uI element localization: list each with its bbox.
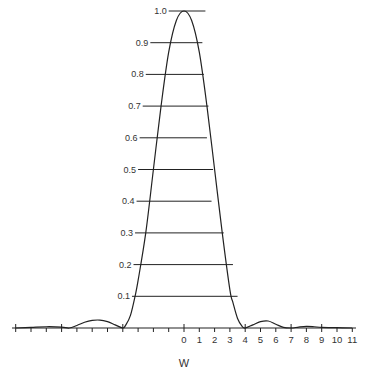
y-tick-label: 1.0 [154, 6, 167, 16]
y-tick-label: 0.7 [128, 101, 141, 111]
x-tick-label: 0 [181, 334, 186, 345]
x-axis-labels: 01234567891011 [181, 334, 357, 345]
x-tick-label: 9 [319, 334, 324, 345]
diffraction-chart: 1.00.90.80.70.60.50.40.30.20.1 012345678… [0, 0, 368, 373]
y-tick-label: 0.2 [119, 260, 132, 270]
y-tick-label: 0.4 [122, 196, 135, 206]
level-lines [132, 11, 238, 296]
x-tick-label: 1 [197, 334, 202, 345]
x-tick-label: 10 [332, 334, 343, 345]
y-tick-label: 0.8 [131, 69, 144, 79]
y-tick-label: 0.6 [125, 133, 138, 143]
y-tick-label: 0.1 [117, 291, 130, 301]
x-tick-label: 6 [273, 334, 278, 345]
x-axis-title: W [179, 357, 190, 369]
x-tick-label: 3 [227, 334, 232, 345]
x-tick-label: 7 [288, 334, 293, 345]
y-tick-label: 0.5 [124, 165, 137, 175]
x-tick-label: 2 [212, 334, 217, 345]
x-tick-label: 8 [304, 334, 309, 345]
x-tick-label: 11 [347, 334, 357, 345]
y-tick-label: 0.9 [136, 38, 149, 48]
y-tick-label: 0.3 [121, 228, 134, 238]
x-tick-label: 5 [258, 334, 263, 345]
x-tick-label: 4 [243, 334, 248, 345]
